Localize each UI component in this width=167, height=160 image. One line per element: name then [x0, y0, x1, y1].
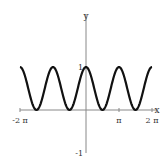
- y-axis-label: y: [82, 11, 89, 21]
- x-tick-label: π: [116, 116, 121, 125]
- y-tick-label: -1: [75, 149, 83, 158]
- chart: -2 ππ2 π1-1xy: [0, 0, 167, 160]
- x-tick-label: 2 π: [146, 116, 159, 125]
- x-tick-label: -2 π: [12, 116, 28, 125]
- y-tick-label: 1: [78, 63, 83, 72]
- x-axis-label: x: [154, 105, 159, 115]
